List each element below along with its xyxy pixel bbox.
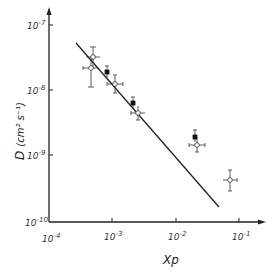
x-tick-label-1e-1: 10-1 [232, 230, 250, 242]
y-tick-label-1e-9: 10-9 [27, 149, 46, 161]
y-tick-label-1e-8: 10-8 [27, 84, 46, 96]
data-point-open [223, 170, 237, 191]
data-point-open [83, 58, 99, 87]
x-axis-arrow-icon [258, 220, 266, 225]
x-tick-label-1e-2: 10-2 [168, 230, 187, 242]
y-axis-title: D(cm² s⁻¹) [13, 102, 27, 160]
y-axis-arrow-icon [47, 7, 52, 15]
data-point-open [107, 75, 123, 93]
data-point-open [189, 138, 205, 152]
data-points [83, 47, 237, 191]
x-axis-title: Xp [162, 253, 179, 267]
chart: 10-7 10-8 10-9 10-10 10-4 10-3 10-2 10-1… [0, 0, 273, 272]
data-point-filled [193, 130, 197, 142]
y-tick-label-1e-7: 10-7 [27, 19, 46, 31]
x-tick-label-1e-4: 10-4 [42, 232, 60, 244]
y-tick-label-1e-10: 10-10 [25, 216, 48, 228]
data-point-open [86, 47, 100, 67]
x-tick-label-1e-3: 10-3 [104, 230, 122, 242]
